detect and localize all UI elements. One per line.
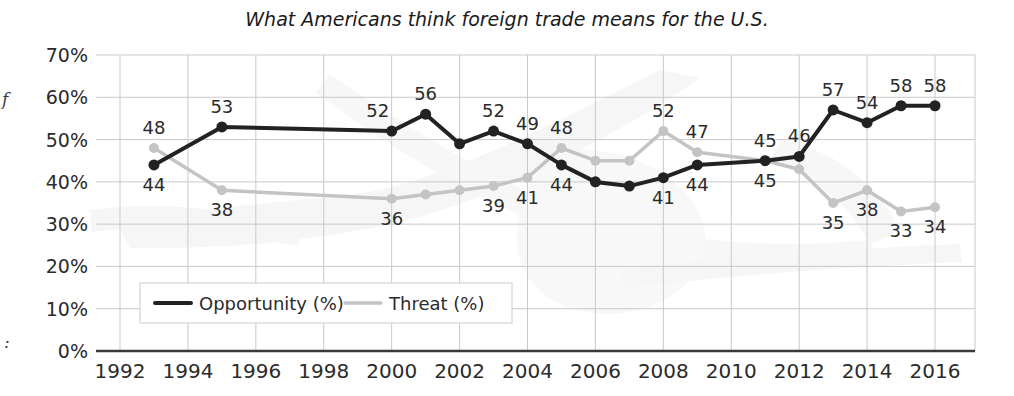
data-point-label: 52 xyxy=(482,100,505,121)
data-point-marker xyxy=(387,194,397,204)
x-axis-tick-label: 1994 xyxy=(162,359,213,383)
data-point-label: 45 xyxy=(754,170,777,191)
data-point-marker xyxy=(556,143,566,153)
x-axis-tick-label: 1996 xyxy=(230,359,281,383)
data-point-label: 53 xyxy=(210,96,233,117)
data-point-marker xyxy=(149,143,159,153)
data-point-marker xyxy=(590,156,600,166)
y-axis-tick-label: 50% xyxy=(46,129,88,151)
data-point-marker xyxy=(692,147,702,157)
y-axis-tick-label: 0% xyxy=(58,340,88,362)
data-point-marker xyxy=(217,185,227,195)
data-point-marker xyxy=(624,156,634,166)
x-axis-tick-label: 2010 xyxy=(706,359,757,383)
legend-entries: Opportunity (%)Threat (%) xyxy=(155,293,484,314)
data-point-label: 35 xyxy=(822,212,845,233)
data-point-label: 58 xyxy=(890,75,913,96)
data-point-label: 52 xyxy=(652,100,675,121)
data-point-marker xyxy=(590,176,601,187)
data-point-label: 36 xyxy=(380,208,403,229)
legend-label: Threat (%) xyxy=(388,293,484,314)
x-axis-tick-label: 2016 xyxy=(910,359,961,383)
data-point-label: 57 xyxy=(822,79,845,100)
data-point-label: 48 xyxy=(143,117,166,138)
data-point-marker xyxy=(455,185,465,195)
data-point-marker xyxy=(658,172,669,183)
data-point-marker xyxy=(896,206,906,216)
y-axis-tick-label: 40% xyxy=(46,171,88,193)
data-point-marker xyxy=(862,117,873,128)
x-axis-tick-label: 1992 xyxy=(95,359,146,383)
data-point-marker xyxy=(489,181,499,191)
data-point-label: 44 xyxy=(686,174,709,195)
x-axis-tick-label: 2004 xyxy=(502,359,553,383)
chart-legend: Opportunity (%)Threat (%) xyxy=(140,283,512,323)
x-axis-tick-label: 2014 xyxy=(842,359,893,383)
data-point-marker xyxy=(794,151,805,162)
data-point-marker xyxy=(523,173,533,183)
x-axis-tick-label: 2012 xyxy=(774,359,825,383)
data-point-label: 41 xyxy=(516,187,539,208)
data-point-marker xyxy=(421,190,431,200)
x-axis-tick-label: 2006 xyxy=(570,359,621,383)
y-axis-tick-label: 60% xyxy=(46,86,88,108)
data-point-marker xyxy=(930,100,941,111)
data-point-label: 46 xyxy=(788,125,811,146)
data-point-label: 41 xyxy=(652,187,675,208)
data-point-label: 54 xyxy=(856,92,879,113)
y-axis-tick-label: 30% xyxy=(46,213,88,235)
data-point-marker xyxy=(760,155,771,166)
data-point-label: 38 xyxy=(210,199,233,220)
x-axis-tick-label: 2008 xyxy=(638,359,689,383)
data-point-marker xyxy=(556,159,567,170)
left-edge-artifact-bottom: : xyxy=(4,332,10,352)
data-point-label: 39 xyxy=(482,195,505,216)
data-point-label: 48 xyxy=(550,117,573,138)
x-axis-tick-label: 1998 xyxy=(298,359,349,383)
legend-label: Opportunity (%) xyxy=(199,293,344,314)
data-point-label: 38 xyxy=(856,199,879,220)
data-point-label: 47 xyxy=(686,121,709,142)
chart-title: What Americans think foreign trade means… xyxy=(245,8,768,30)
data-point-label: 44 xyxy=(550,174,573,195)
data-point-marker xyxy=(930,202,940,212)
y-axis-tick-label: 70% xyxy=(46,44,88,66)
data-point-marker xyxy=(828,104,839,115)
trade-opinion-line-chart: What Americans think foreign trade means… xyxy=(0,0,1014,396)
data-point-marker xyxy=(692,159,703,170)
data-point-label: 45 xyxy=(754,130,777,151)
data-point-marker xyxy=(794,164,804,174)
data-point-marker xyxy=(896,100,907,111)
data-point-marker xyxy=(386,126,397,137)
data-point-label: 33 xyxy=(890,220,913,241)
y-axis-tick-label: 10% xyxy=(46,298,88,320)
data-point-marker xyxy=(420,109,431,120)
data-point-marker xyxy=(216,121,227,132)
data-point-marker xyxy=(522,138,533,149)
x-axis-tick-label: 2002 xyxy=(434,359,485,383)
data-point-label: 34 xyxy=(924,216,947,237)
data-point-marker xyxy=(658,126,668,136)
data-point-label: 44 xyxy=(143,174,166,195)
data-point-marker xyxy=(488,126,499,137)
data-point-marker xyxy=(624,181,635,192)
data-point-marker xyxy=(862,185,872,195)
data-point-label: 52 xyxy=(366,100,389,121)
data-point-label: 49 xyxy=(516,113,539,134)
data-point-marker xyxy=(828,198,838,208)
y-axis-tick-label: 20% xyxy=(46,255,88,277)
data-point-label: 56 xyxy=(414,83,437,104)
data-point-marker xyxy=(148,159,159,170)
data-point-marker xyxy=(454,138,465,149)
data-point-label: 58 xyxy=(924,75,947,96)
x-axis-tick-label: 2000 xyxy=(366,359,417,383)
